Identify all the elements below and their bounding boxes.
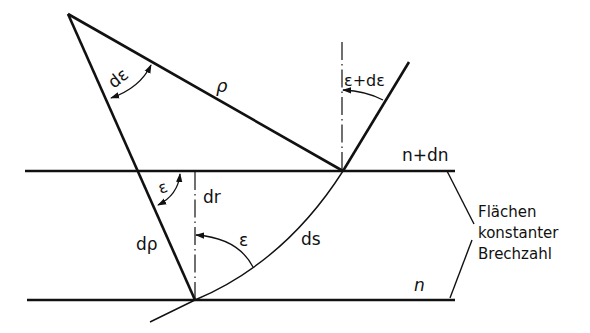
label-ds: ds [301,229,321,249]
label-d-rho: dρ [136,234,158,254]
label-epsilon-lower: ε [239,230,248,250]
bracket-lower [450,240,472,298]
label-rho: ρ [216,75,228,96]
angle-arc-epsilon-plus-d-epsilon [343,90,383,100]
label-epsilon-upper: ε [155,177,170,198]
label-surfaces-line3: Brechzahl [478,245,552,263]
radius-rho-line [68,14,343,171]
label-epsilon-plus-d-epsilon: ε+dε [344,71,385,90]
label-surfaces-line2: konstanter [478,224,559,242]
bracket-upper [447,171,474,224]
label-surfaces-line1: Flächen [478,203,536,221]
label-n: n [414,275,425,295]
label-n-plus-dn: n+dn [402,145,449,165]
label-dr: dr [203,187,221,207]
radius-line-to-lower-point [68,14,195,300]
label-d-epsilon: dε [104,64,132,92]
refraction-diagram: dε ρ ε+dε n+dn ε dr dρ ε ds n Flächen ko… [0,0,590,333]
